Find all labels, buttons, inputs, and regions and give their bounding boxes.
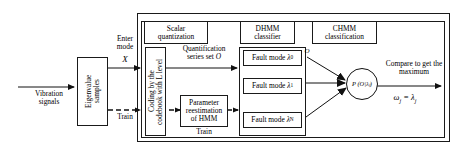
flow-diagram: Vibrationsignals Eigenvaluesamples Enter… bbox=[0, 0, 457, 151]
vibration-signals-label: Vibrationsignals bbox=[18, 90, 80, 106]
chmm-classification-header: CHMMclassification bbox=[312, 21, 377, 44]
fault-mode-1-box[interactable]: Fault mode λ1 bbox=[243, 78, 302, 94]
compare-max-label: Compare to get themaximum bbox=[370, 60, 457, 76]
fault-mode-n-box[interactable]: Fault mode λN bbox=[243, 112, 302, 128]
probability-node-label: P (O|λⱼ) bbox=[352, 80, 372, 88]
eigenvalue-samples-box: Eigenvaluesamples bbox=[77, 57, 108, 126]
enter-mode-symbol: X bbox=[109, 55, 141, 65]
arrow-modeN-to-node bbox=[306, 88, 346, 117]
parameter-reestimation-box: Parameterreestimationof HMM bbox=[180, 95, 228, 127]
enter-mode-label: Entermode bbox=[109, 35, 141, 51]
output-omega-label: ωj = λj bbox=[370, 93, 440, 104]
fault-mode-0-box[interactable]: Fault mode λ0 bbox=[243, 50, 302, 66]
arrow-mode0-to-node bbox=[307, 57, 345, 80]
scalar-quantization-header: Scalarquantization bbox=[144, 21, 208, 44]
observation-symbol-label: O bbox=[301, 48, 313, 56]
quantification-series-label: Quantificationseries set O bbox=[168, 45, 240, 61]
train-label: Train bbox=[109, 113, 141, 121]
parameter-train-label: Train bbox=[180, 128, 228, 136]
coding-codebook-box: Coding by thecodebook with L level bbox=[145, 47, 166, 136]
dhmm-classifier-header: DHMMclassifier bbox=[240, 21, 295, 44]
